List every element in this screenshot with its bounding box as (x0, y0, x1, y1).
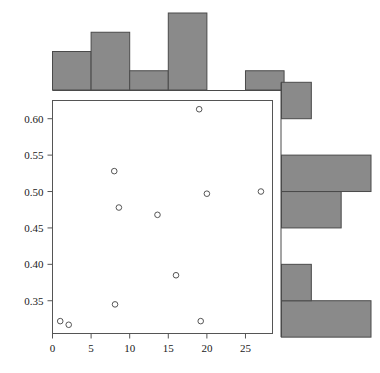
x-axis-tick-label: 15 (163, 342, 175, 354)
scatter-with-marginal-histograms-figure: 0510152025 0.350.400.450.500.550.60 (0, 0, 380, 373)
x-axis-tick-label: 10 (124, 342, 136, 354)
y-histogram-bar (282, 301, 372, 337)
x-axis-tick-label: 5 (88, 342, 94, 354)
x-axis: 0510152025 (50, 334, 273, 354)
y-axis-tick-label: 0.55 (24, 149, 44, 161)
y-axis-tick-label: 0.40 (24, 258, 44, 270)
x-axis-tick-label: 20 (201, 342, 213, 354)
x-axis-tick-label: 0 (50, 342, 56, 354)
chart-canvas: 0510152025 0.350.400.450.500.550.60 (0, 0, 380, 373)
y-histogram-bar (282, 82, 312, 118)
plot-frame (53, 101, 273, 334)
x-axis-tick-label: 25 (240, 342, 252, 354)
y-axis: 0.350.400.450.500.550.60 (24, 113, 52, 307)
y-axis-tick-label: 0.45 (24, 222, 44, 234)
x-histogram-bar (168, 13, 207, 90)
y-axis-tick-label: 0.50 (24, 186, 44, 198)
x-histogram-bar (53, 52, 92, 91)
x-marginal-histogram (53, 13, 285, 91)
x-histogram-bar (245, 71, 284, 90)
x-histogram-bar (130, 71, 169, 90)
y-axis-tick-label: 0.60 (24, 113, 44, 125)
y-histogram-bar (282, 192, 342, 228)
y-histogram-bar (282, 155, 372, 191)
x-histogram-bar (91, 32, 130, 90)
y-marginal-histogram (281, 82, 371, 337)
y-histogram-bar (282, 264, 312, 300)
y-axis-tick-label: 0.35 (24, 295, 44, 307)
